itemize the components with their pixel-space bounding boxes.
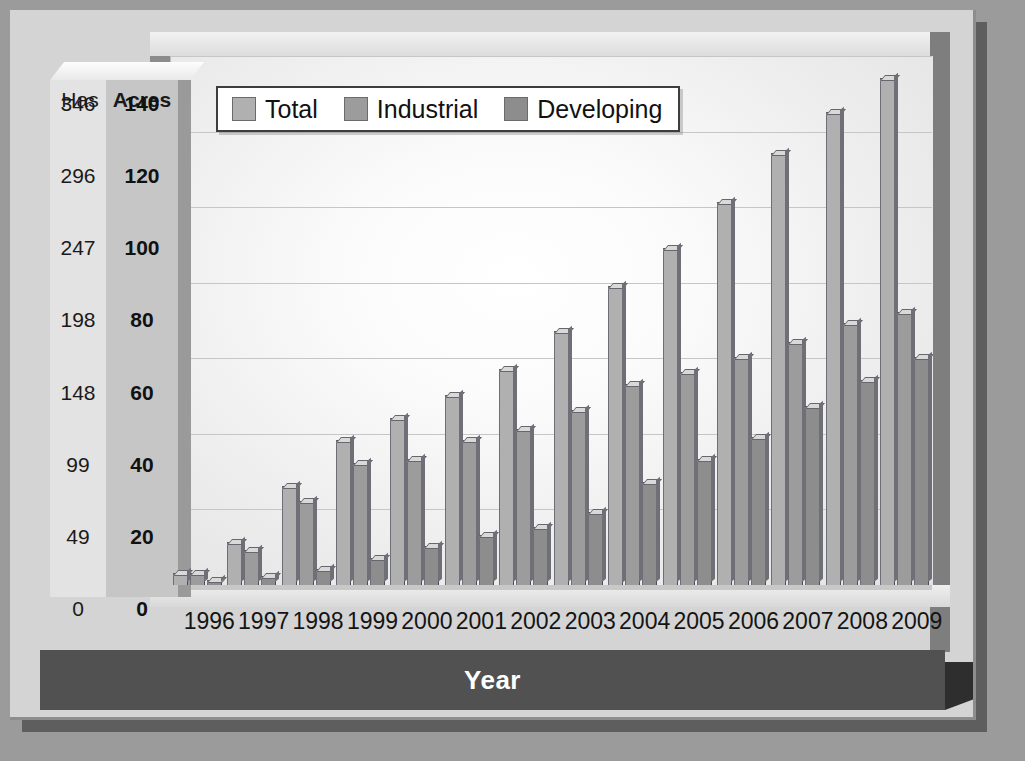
bar[interactable] [554, 331, 569, 585]
chart-figure: Has Acres 346140296120247100198801486099… [0, 0, 1025, 761]
axis-tick-acres: 80 [106, 307, 178, 333]
bar[interactable] [843, 323, 858, 585]
bar[interactable] [316, 569, 331, 585]
bar[interactable] [516, 429, 531, 585]
bar[interactable] [336, 440, 351, 585]
bar[interactable] [897, 312, 912, 585]
category-label: 2006 [726, 608, 780, 635]
axis-tick-row: 4920 [50, 524, 178, 550]
bar-group [388, 56, 442, 585]
axis-tick-row: 9940 [50, 452, 178, 478]
bar[interactable] [299, 501, 314, 585]
axis-tick-acres: 60 [106, 380, 178, 406]
bar[interactable] [751, 437, 766, 585]
bar[interactable] [499, 369, 514, 585]
axis-tick-has: 148 [50, 380, 106, 406]
bar-group [170, 56, 224, 585]
axis-tick-has: 198 [50, 307, 106, 333]
plot-wall-top [150, 32, 940, 56]
axis-tick-row: 00 [50, 596, 178, 622]
bar-group [442, 56, 496, 585]
category-label: 1997 [236, 608, 290, 635]
bar[interactable] [244, 550, 259, 585]
bar[interactable] [407, 459, 422, 585]
bar[interactable] [571, 410, 586, 585]
bar[interactable] [533, 527, 548, 585]
bar[interactable] [642, 482, 657, 585]
category-label: 2008 [835, 608, 889, 635]
bar[interactable] [734, 357, 749, 585]
axis-tick-acres: 140 [106, 91, 178, 117]
bar[interactable] [826, 112, 841, 585]
bar-group [497, 56, 551, 585]
bar[interactable] [282, 486, 297, 585]
bar-group [660, 56, 714, 585]
bar[interactable] [445, 395, 460, 585]
bar-series-container [170, 56, 932, 585]
bar[interactable] [588, 512, 603, 585]
axis-tick-acres: 20 [106, 524, 178, 550]
bar[interactable] [353, 463, 368, 585]
bar[interactable] [697, 459, 712, 585]
bar[interactable] [462, 440, 477, 585]
axis-tick-has: 296 [50, 163, 106, 189]
bar[interactable] [227, 542, 242, 585]
category-label: 2005 [672, 608, 726, 635]
axis-tick-row: 346140 [50, 91, 178, 117]
bar[interactable] [914, 357, 929, 585]
bar[interactable] [625, 384, 640, 585]
axis-tick-acres: 40 [106, 452, 178, 478]
category-label: 2007 [781, 608, 835, 635]
category-label: 2000 [400, 608, 454, 635]
bar[interactable] [680, 372, 695, 585]
axis-tick-has: 99 [50, 452, 106, 478]
axis-tick-has: 0 [50, 596, 106, 622]
bar[interactable] [771, 153, 786, 585]
axis-tick-has: 346 [50, 91, 106, 117]
axis-tick-acres: 100 [106, 235, 178, 261]
category-label: 2002 [509, 608, 563, 635]
category-label: 2009 [890, 608, 944, 635]
axis-tick-acres: 0 [106, 596, 178, 622]
bar[interactable] [717, 202, 732, 585]
bar-group [224, 56, 278, 585]
bar[interactable] [190, 573, 205, 585]
axis-tick-row: 19880 [50, 307, 178, 333]
bar-group [551, 56, 605, 585]
bar-group [333, 56, 387, 585]
axis-tick-row: 296120 [50, 163, 178, 189]
axis-tick-has: 49 [50, 524, 106, 550]
bar[interactable] [608, 286, 623, 586]
bar[interactable] [805, 406, 820, 585]
category-label: 1996 [182, 608, 236, 635]
category-label: 1999 [345, 608, 399, 635]
plot-wall-right [930, 32, 950, 652]
axis-tick-has: 247 [50, 235, 106, 261]
category-label: 1998 [291, 608, 345, 635]
bar-group [878, 56, 932, 585]
bar[interactable] [424, 546, 439, 585]
bar[interactable] [663, 248, 678, 585]
bar[interactable] [173, 573, 188, 585]
bar[interactable] [880, 78, 895, 585]
category-label: 2004 [617, 608, 671, 635]
plot-floor-edge [170, 585, 932, 590]
acres-column-background [106, 80, 178, 597]
bar[interactable] [788, 342, 803, 585]
bar[interactable] [860, 380, 875, 585]
category-label: 2003 [563, 608, 617, 635]
axis-tick-acres: 120 [106, 163, 178, 189]
category-label: 2001 [454, 608, 508, 635]
bar[interactable] [479, 535, 494, 585]
bar-group [714, 56, 768, 585]
bar[interactable] [261, 576, 276, 585]
axis-tick-row: 14860 [50, 380, 178, 406]
category-axis-labels: 1996199719981999200020012002200320042005… [170, 608, 960, 638]
x-axis-title: Year [40, 650, 945, 710]
bar-group [605, 56, 659, 585]
bar-side-face [928, 352, 932, 582]
bar[interactable] [207, 580, 222, 585]
bar[interactable] [370, 558, 385, 585]
bar-group [279, 56, 333, 585]
bar[interactable] [390, 418, 405, 585]
